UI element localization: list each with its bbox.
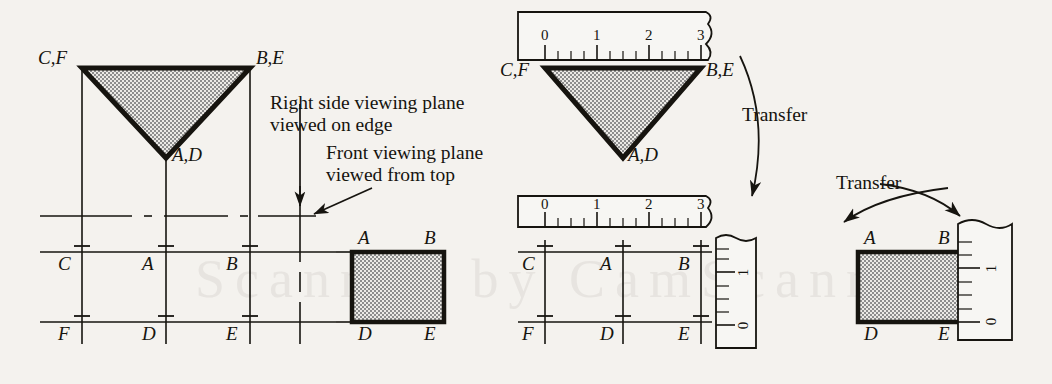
top-ruler-num-1: 1 [593, 28, 601, 43]
left-triangle-group [82, 68, 250, 158]
middle-grid-label-b: B [678, 254, 690, 273]
transfer-label-lower: Transfer [836, 172, 901, 195]
left-grid-label-b: B [226, 254, 238, 273]
middle-grid-label-d: D [600, 324, 614, 343]
right-rect-label-e: E [938, 324, 950, 343]
right-rect-label-d: D [864, 324, 878, 343]
right-vruler-num-0: 0 [984, 318, 999, 326]
middle-grid-label-e: E [678, 324, 690, 343]
figure-canvas: Scanned by CamScanner [0, 0, 1052, 384]
middle-triangle-label-be: B,E [706, 60, 734, 79]
annotation-rightside-line1: Right side viewing plane [270, 92, 464, 115]
front-plane-arrow [314, 188, 372, 214]
left-grid-rows [40, 252, 336, 322]
left-triangle-label-be: B,E [256, 48, 284, 67]
right-rect-label-b: B [938, 228, 950, 247]
right-rectangle-group [858, 252, 962, 322]
left-rectangle-shape [352, 252, 444, 322]
mid-ruler-num-0: 0 [541, 197, 549, 212]
left-grid-label-e: E [226, 324, 238, 343]
left-rect-label-b: B [424, 228, 436, 247]
transfer-arrows [740, 56, 960, 222]
annotation-front-line2: viewed from top [326, 164, 455, 187]
mid-ruler-num-3: 3 [697, 197, 705, 212]
right-rect-label-a: A [864, 228, 876, 247]
left-grid-label-f: F [58, 324, 70, 343]
transfer-label-upper: Transfer [742, 104, 807, 127]
middle-grid-label-c: C [522, 254, 535, 273]
middle-vertical-ruler [716, 235, 756, 348]
top-ruler-num-2: 2 [645, 28, 653, 43]
right-rectangle-shape [858, 252, 962, 322]
left-triangle-label-ad: A,D [172, 145, 202, 164]
left-rect-label-e: E [424, 324, 436, 343]
left-triangle-label-cf: C,F [38, 48, 67, 67]
middle-triangle-group [545, 68, 701, 158]
left-grid-label-a: A [142, 254, 154, 273]
left-grid-label-c: C [58, 254, 71, 273]
middle-vruler-num-1: 1 [736, 269, 751, 277]
top-ruler-num-3: 3 [697, 28, 705, 43]
mid-ruler-num-1: 1 [593, 197, 601, 212]
middle-grid-label-a: A [600, 254, 612, 273]
middle-vruler-body [716, 235, 756, 348]
top-ruler-num-0: 0 [541, 28, 549, 43]
left-rect-label-d: D [358, 324, 372, 343]
middle-vruler-num-0: 0 [736, 322, 751, 330]
annotation-front-line1: Front viewing plane [326, 142, 483, 165]
middle-triangle-label-cf: C,F [500, 60, 529, 79]
left-triangle-shape [82, 68, 250, 158]
left-rectangle-group [336, 252, 444, 322]
middle-grid-label-f: F [522, 324, 534, 343]
left-rect-label-a: A [358, 228, 370, 247]
left-grid-label-d: D [142, 324, 156, 343]
right-vruler-num-1: 1 [984, 265, 999, 273]
mid-ruler-num-2: 2 [645, 197, 653, 212]
annotation-rightside-line2: viewed on edge [270, 114, 392, 137]
middle-triangle-shape [545, 68, 701, 158]
middle-triangle-label-ad: A,D [628, 145, 658, 164]
